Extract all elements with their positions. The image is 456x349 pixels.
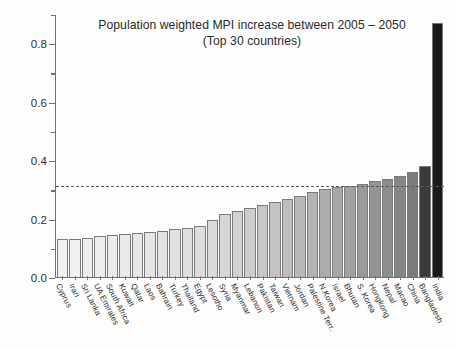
x-tick [275,276,276,280]
x-tick [100,276,101,280]
bar[interactable] [332,187,344,277]
bar-slot [106,15,119,277]
x-label-slot: Kuwait [119,280,132,348]
x-tick [212,276,213,280]
bar[interactable] [407,172,419,277]
x-label-slot: Bhutan [344,280,357,348]
bar-slot [219,15,232,277]
y-tick-minor [51,73,55,74]
bar-slot [431,15,444,277]
x-label-slot: Sri Lanka [81,280,94,348]
bar[interactable] [307,192,319,277]
threshold-dashed-line [56,186,444,187]
x-tick [125,276,126,280]
x-tick-label: Iran [67,282,81,299]
bar[interactable] [157,231,169,277]
bar-slot [294,15,307,277]
x-tick [87,276,88,280]
x-tick [288,276,289,280]
y-tick-major [49,44,55,45]
bar[interactable] [232,211,244,277]
x-tick [338,276,339,280]
bar-slot [281,15,294,277]
bar-slot [81,15,94,277]
x-tick [413,276,414,280]
x-label-slot: South Africa [106,280,119,348]
x-tick [425,276,426,280]
bar[interactable] [119,234,131,277]
x-label-slot: Turkey [169,280,182,348]
x-label-slot: Palestine Terr. [306,280,319,348]
x-label-slot: Thailand [181,280,194,348]
x-label-slot: Jordan [294,280,307,348]
bar[interactable] [144,232,156,277]
bar[interactable] [69,239,81,277]
bar[interactable] [357,184,369,277]
bar-slot [256,15,269,277]
bar-slot [394,15,407,277]
bar-slot [56,15,69,277]
x-label-slot: Lebanon [244,280,257,348]
x-tick [150,276,151,280]
bar-slot [94,15,107,277]
bar[interactable] [94,236,106,277]
x-label-slot: Laos [144,280,157,348]
bar[interactable] [57,239,69,277]
y-tick-minor [51,190,55,191]
bar[interactable] [257,205,269,277]
bar-slot [406,15,419,277]
x-label-slot: Nepal [381,280,394,348]
x-label-slot: S. Korea [356,280,369,348]
bar[interactable] [394,176,406,277]
y-tick-label: 0.4 [31,155,47,167]
x-tick [112,276,113,280]
bar[interactable] [344,186,356,277]
x-tick [187,276,188,280]
bar[interactable] [294,196,306,277]
bar[interactable] [419,166,431,277]
x-label-slot: China [406,280,419,348]
x-label-slot: Taiwan [269,280,282,348]
x-label-slot: Bahrain [156,280,169,348]
x-label-slot: Bangladesh [419,280,432,348]
bar[interactable] [369,181,381,277]
bar[interactable] [169,229,181,277]
x-label-slot: Macao [394,280,407,348]
x-label-slot: Pakistan [256,280,269,348]
bar[interactable] [207,220,219,277]
x-tick [313,276,314,280]
bar[interactable] [382,179,394,277]
bar[interactable] [107,235,119,277]
bar[interactable] [244,208,256,277]
bar-slot [156,15,169,277]
bar[interactable] [319,189,331,277]
bar-slot [119,15,132,277]
x-axis-labels: CyprusIranSri LankaUA EmiratesSouth Afri… [56,280,444,348]
x-tick [200,276,201,280]
bar[interactable] [182,228,194,277]
x-tick-label: India [430,282,446,302]
bar-slot [206,15,219,277]
bar[interactable] [282,199,294,277]
bar-series [56,15,444,277]
y-tick-minor [51,15,55,16]
x-tick [225,276,226,280]
bar[interactable] [432,23,444,277]
bar-slot [181,15,194,277]
y-tick-label: 0.8 [31,38,47,50]
bar-slot [269,15,282,277]
bar-slot [419,15,432,277]
bar[interactable] [82,238,94,277]
bar[interactable] [194,226,206,277]
bar[interactable] [219,214,231,277]
bar-slot [369,15,382,277]
x-tick [237,276,238,280]
y-tick-minor [51,249,55,250]
bar-slot [194,15,207,277]
y-tick-label: 0.2 [31,214,47,226]
bar-slot [344,15,357,277]
x-label-slot: UA Emirates [94,280,107,348]
bar[interactable] [269,202,281,277]
y-tick-label: 0.6 [31,97,47,109]
bar[interactable] [132,233,144,277]
